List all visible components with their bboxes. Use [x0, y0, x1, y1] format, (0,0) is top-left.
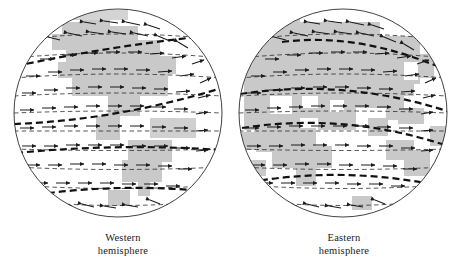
caption-western-hemisphere: Western hemisphere [63, 232, 183, 257]
panel-western [14, 9, 228, 217]
panel-eastern [238, 9, 450, 217]
caption-eastern-hemisphere: Eastern hemisphere [284, 232, 404, 257]
